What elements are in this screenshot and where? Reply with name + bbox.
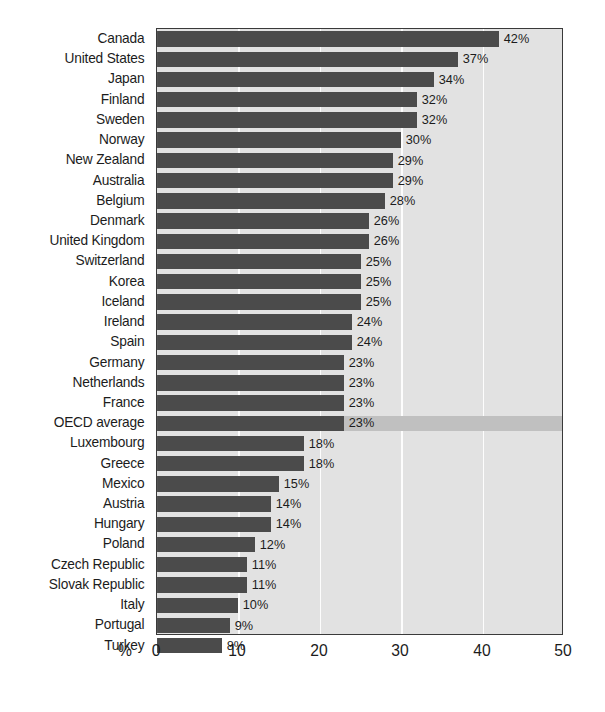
category-label: Greece [9,453,151,473]
bar [157,31,499,46]
x-axis: % 01020304050 [0,641,605,671]
bar-row: 42% [157,29,562,49]
category-label: Denmark [9,210,151,230]
x-tick-label: 10 [229,641,246,660]
bar-value-label: 32% [417,111,447,129]
bar [157,496,271,511]
bar [157,213,369,228]
category-label: Portugal [9,614,151,634]
bar [157,153,393,168]
bar-value-label: 14% [271,495,301,513]
bar-row: 23% [157,393,562,413]
bar [157,72,434,87]
bar-value-label: 11% [247,576,276,594]
bar-row: 18% [157,454,562,474]
category-label: Japan [9,68,151,88]
x-tick-label: 20 [310,641,327,660]
bar-row: 9% [157,615,562,635]
category-label: Korea [9,271,151,291]
bar-value-label: 23% [344,354,374,372]
bar-value-label: 24% [352,313,382,331]
bar [157,294,361,309]
bar [157,92,417,107]
bar-row: 26% [157,231,562,251]
bar-row: 15% [157,474,562,494]
bar-value-label: 25% [361,253,391,271]
category-label: Belgium [9,190,151,210]
bar [157,537,255,552]
category-label: United Kingdom [9,230,151,250]
bar-value-label: 11% [247,556,276,574]
category-label: Finland [9,89,151,109]
bar-row: 24% [157,312,562,332]
bar-value-label: 34% [434,71,464,89]
bar [157,395,344,410]
bar-value-label: 30% [401,131,431,149]
bar [157,436,304,451]
bar [157,254,361,269]
category-label: Canada [9,28,151,48]
bar-row: 12% [157,534,562,554]
bar-row: 30% [157,130,562,150]
bar-row: 28% [157,191,562,211]
bar [157,193,385,208]
category-label: Poland [9,533,151,553]
bar-row: 37% [157,49,562,69]
bar-value-label: 23% [344,414,374,432]
bar-chart: CanadaUnited StatesJapanFinlandSwedenNor… [0,0,605,712]
bar-row: 14% [157,514,562,534]
bar-value-label: 42% [499,30,529,48]
bar-value-label: 12% [255,536,285,554]
category-label: Ireland [9,311,151,331]
bar-row: 11% [157,555,562,575]
bar [157,52,458,67]
category-label: Sweden [9,109,151,129]
x-tick-label: 40 [473,641,490,660]
bar-value-label: 23% [344,394,374,412]
bar-row: 10% [157,595,562,615]
category-label: Switzerland [9,250,151,270]
category-label: Iceland [9,291,151,311]
bar-row: 11% [157,575,562,595]
category-label: Australia [9,170,151,190]
bar [157,234,369,249]
bar [157,598,238,613]
bar-value-label: 37% [458,50,488,68]
bar-value-label: 26% [369,212,399,230]
bar-value-label: 29% [393,152,423,170]
bar-row: 34% [157,69,562,89]
bar [157,173,393,188]
category-axis-labels: CanadaUnited StatesJapanFinlandSwedenNor… [0,28,151,655]
category-label: Germany [9,352,151,372]
bar-value-label: 14% [271,515,301,533]
bar-row: 25% [157,251,562,271]
bar-value-label: 28% [385,192,415,210]
bar [157,112,417,127]
bar-row: 18% [157,433,562,453]
bar [157,314,352,329]
bar-row: 25% [157,292,562,312]
bar-rows: 42%37%34%32%32%30%29%29%28%26%26%25%25%2… [157,29,562,634]
bar [157,132,401,147]
x-tick-label: 0 [152,641,161,660]
bar [157,335,352,350]
bar-value-label: 29% [393,172,423,190]
bar-row: 29% [157,150,562,170]
bar-value-label: 9% [230,617,253,635]
category-label: Netherlands [9,372,151,392]
bar-value-label: 26% [369,232,399,250]
bar-row: 23% [157,413,562,433]
bar [157,456,304,471]
bar [157,476,279,491]
bar-value-label: 25% [361,293,391,311]
bar-row: 14% [157,494,562,514]
category-label: Hungary [9,513,151,533]
bar-value-label: 25% [361,273,391,291]
category-label: Czech Republic [9,554,151,574]
bar-row: 32% [157,90,562,110]
bar-value-label: 10% [238,596,268,614]
bar-value-label: 32% [417,91,447,109]
bar [157,618,230,633]
category-label: Norway [9,129,151,149]
plot-area: 42%37%34%32%32%30%29%29%28%26%26%25%25%2… [156,28,563,635]
